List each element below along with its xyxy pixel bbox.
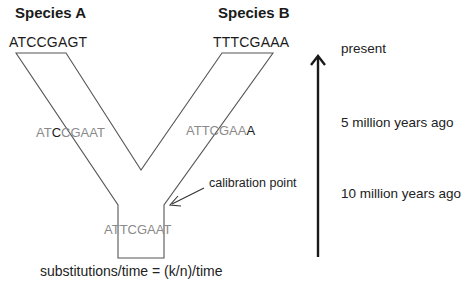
right-seq-substitution: A bbox=[246, 123, 255, 138]
species-b-title: Species B bbox=[218, 4, 290, 21]
rate-formula: substitutions/time = (k/n)/time bbox=[40, 263, 222, 279]
right-seq-prefix: ATTCGAA bbox=[186, 123, 246, 138]
species-b-sequence: TTTCGAAA bbox=[213, 34, 289, 50]
time-arrow-icon bbox=[311, 56, 325, 257]
species-a-sequence: ATCCGAGT bbox=[9, 34, 87, 50]
time-label-10mya: 10 million years ago bbox=[341, 186, 461, 201]
calibration-arrow-icon bbox=[170, 188, 204, 206]
species-a-title: Species A bbox=[15, 4, 86, 21]
right-branch-sequence: ATTCGAAA bbox=[186, 123, 255, 138]
left-seq-substitution: C bbox=[52, 125, 61, 140]
left-seq-prefix: AT bbox=[36, 125, 52, 140]
ancestor-sequence: ATTCGAAT bbox=[104, 222, 171, 237]
left-seq-suffix: CGAAT bbox=[61, 125, 105, 140]
calibration-point-label: calibration point bbox=[209, 176, 297, 190]
time-label-present: present bbox=[341, 41, 386, 56]
time-label-5mya: 5 million years ago bbox=[341, 115, 454, 130]
left-branch-sequence: ATCCGAAT bbox=[36, 125, 105, 140]
